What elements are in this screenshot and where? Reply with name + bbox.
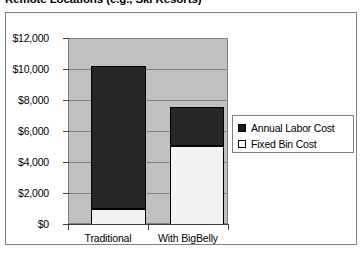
chart-frame: $12,000 $10,000 $8,000 $6,000 $4,000 $2,… (5, 12, 357, 245)
y-axis-label-0: $0 (38, 218, 49, 230)
y-axis-label-10000: $10,000 (12, 63, 49, 75)
y-tick-2000 (63, 193, 69, 194)
y-tick-8000 (63, 100, 69, 101)
legend-label-fixed-bin-cost: Fixed Bin Cost (251, 138, 316, 150)
y-tick-4000 (63, 162, 69, 163)
legend-item-annual-labor-cost[interactable]: Annual Labor Cost (238, 120, 348, 135)
y-tick-12000 (63, 38, 69, 39)
y-axis-label-12000: $12,000 (12, 32, 49, 44)
chart-title: Remote Locations (e.g., Ski Resorts) (5, 0, 201, 5)
y-tick-10000 (63, 69, 69, 70)
legend-swatch-icon-annual-labor-cost (238, 124, 246, 132)
x-tick-left (68, 224, 69, 230)
legend-item-fixed-bin-cost[interactable]: Fixed Bin Cost (238, 136, 348, 151)
x-tick-right (228, 224, 229, 230)
bar-traditional-fixed-bin-cost[interactable] (91, 209, 146, 225)
y-axis-label-2000: $2,000 (18, 187, 49, 199)
y-tick-6000 (63, 131, 69, 132)
legend-swatch-icon-fixed-bin-cost (238, 140, 246, 148)
bar-with-bigbelly-fixed-bin-cost[interactable] (170, 146, 224, 225)
x-axis-label-with-bigbelly: With BigBelly (158, 232, 218, 244)
legend-label-annual-labor-cost: Annual Labor Cost (251, 122, 335, 134)
chart-legend: Annual Labor Cost Fixed Bin Cost (232, 115, 354, 153)
bar-traditional-annual-labor-cost[interactable] (91, 66, 146, 209)
y-axis-label-8000: $8,000 (18, 94, 49, 106)
y-axis-label-6000: $6,000 (18, 125, 49, 137)
bar-with-bigbelly-annual-labor-cost[interactable] (170, 107, 224, 146)
x-tick-middle (148, 224, 149, 230)
y-axis-label-4000: $4,000 (18, 156, 49, 168)
x-axis-label-traditional: Traditional (85, 232, 132, 244)
